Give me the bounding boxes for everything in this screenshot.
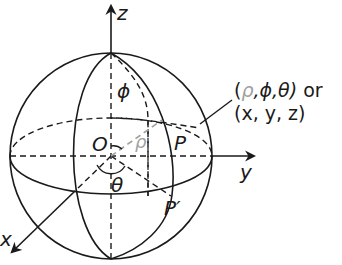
annotation-line-1: (ρ,ϕ,θ) or: [234, 79, 323, 101]
projection-label: P′: [164, 196, 181, 220]
annotation-coords: ,ϕ,θ): [253, 79, 297, 101]
y-axis-label: y: [239, 160, 253, 184]
annotation-line-2: (x, y, z): [234, 102, 305, 124]
theta-label: θ: [111, 173, 123, 197]
rho-label: ρ: [135, 131, 147, 152]
x-axis-hidden: [74, 156, 111, 192]
x-axis-label: x: [0, 227, 12, 251]
spherical-coordinates-diagram: z y x O P P′ ϕ θ ρ (ρ,ϕ,θ) or (x, y, z): [0, 0, 342, 265]
phi-arc: [111, 146, 122, 149]
annotation-leader: [200, 100, 232, 124]
annotation-rho: ρ: [241, 79, 253, 101]
point-label: P: [174, 131, 187, 155]
x-axis: [12, 192, 74, 252]
z-axis-label: z: [116, 1, 128, 25]
latitude-circle-dashed: [111, 118, 200, 128]
phi-label: ϕ: [117, 79, 130, 103]
annotation-open-paren: (: [234, 79, 241, 101]
origin-label: O: [92, 132, 108, 156]
annotation-or: or: [297, 79, 323, 101]
